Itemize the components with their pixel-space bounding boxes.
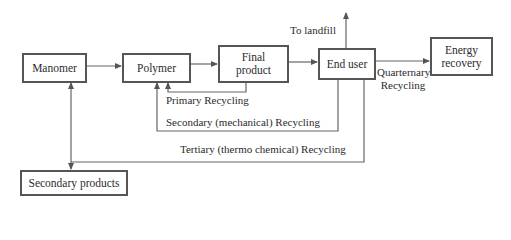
node-final-product: Final product [218,45,289,83]
node-label: Polymer [137,62,176,75]
node-label: Manomer [32,62,77,75]
label-line1: Quarternary [377,66,429,79]
node-manomer: Manomer [22,53,87,83]
node-label-line1: Energy [445,44,478,57]
node-secondary-products: Secondary products [20,170,128,196]
label-primary-recycling: Primary Recycling [166,94,249,107]
node-end-user: End user [318,48,376,80]
node-label-line2: recovery [441,57,481,70]
node-label-line1: Final [242,51,266,64]
node-polymer: Polymer [122,53,191,83]
label-tertiary-recycling: Tertiary (thermo chemical) Recycling [180,143,346,156]
label-line2: Recycling [377,79,429,92]
node-label: End user [327,58,368,71]
label-secondary-recycling: Secondary (mechanical) Recycling [166,116,320,129]
label-quarternary-recycling: Quarternary Recycling [377,66,429,92]
node-energy-recovery: Energy recovery [430,37,493,76]
node-label: Secondary products [28,177,119,190]
loop-primary-recycling [168,82,246,92]
node-label-line2: product [236,64,271,77]
label-to-landfill: To landfill [290,24,336,37]
